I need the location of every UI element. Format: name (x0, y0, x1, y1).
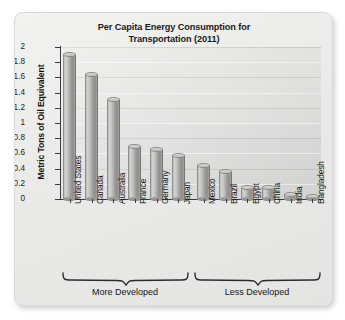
chart-title-line-1: Per Capita Energy Consumption for (43, 22, 305, 34)
x-axis-label-canada: Canada (95, 176, 105, 204)
y-axis-tick-label: 2 (14, 43, 25, 51)
y-axis-tick-label: 1.8 (14, 58, 25, 66)
y-axis-tick-label: 1.2 (14, 104, 25, 112)
x-axis-label-germany: Germany (160, 171, 170, 204)
brace-more-developed (63, 273, 188, 285)
gridline (61, 93, 321, 94)
y-axis-tick (55, 47, 61, 48)
y-axis-tick-label: 0.2 (14, 180, 25, 188)
y-axis-tick (55, 108, 61, 109)
x-axis-label-egypt: Egypt (251, 183, 261, 204)
chart-page: Per Capita Energy Consumption for Transp… (0, 0, 345, 320)
y-axis-tick (55, 138, 61, 139)
chart-card: Per Capita Energy Consumption for Transp… (14, 12, 333, 306)
x-axis-tick (178, 199, 179, 203)
gridline (61, 62, 321, 63)
x-axis-tick (113, 199, 114, 203)
bar-top-cap (85, 72, 98, 77)
brace-less-developed (195, 273, 320, 285)
bar-top-cap (197, 163, 210, 168)
x-axis-label-china: China (272, 183, 282, 204)
gridline (61, 153, 321, 154)
chart-title: Per Capita Energy Consumption for Transp… (43, 22, 305, 45)
group-braces (61, 271, 323, 287)
x-axis-tick (92, 199, 93, 203)
x-axis-label-brazil: Brazil (229, 184, 239, 204)
y-axis-tick (55, 77, 61, 78)
y-axis-tick (55, 153, 61, 154)
x-axis-label-united-states: United States (73, 156, 83, 204)
gridline (61, 123, 321, 124)
y-axis-tick (55, 184, 61, 185)
bar-top-cap (219, 169, 232, 174)
x-axis-label-mexico: Mexico (207, 178, 217, 204)
x-axis-tick (157, 199, 158, 203)
chart-card-surface: Per Capita Energy Consumption for Transp… (15, 13, 332, 305)
gridline (61, 138, 321, 139)
x-axis-label-bangladesh: Bangladesh (316, 161, 326, 204)
y-axis-tick-label: 1 (14, 119, 25, 127)
x-axis-tick (70, 199, 71, 203)
x-axis-tick (135, 199, 136, 203)
y-axis-tick-label: 1.6 (14, 73, 25, 81)
x-axis-tick (204, 199, 205, 203)
y-axis-tick (55, 62, 61, 63)
y-axis-tick (55, 93, 61, 94)
bar-top-cap (107, 97, 120, 102)
gridline (61, 169, 321, 170)
x-axis-label-france: France (138, 179, 148, 204)
x-axis-tick (269, 199, 270, 203)
gridline (61, 77, 321, 78)
chart-title-line-2: Transportation (2011) (43, 34, 305, 46)
x-axis-label-japan: Japan (182, 182, 192, 204)
x-axis-tick (312, 199, 313, 203)
y-axis-title: Metric Tons of Oil Equivalent (36, 52, 46, 192)
bar-top-cap (172, 153, 185, 158)
x-axis-label-australia: Australia (117, 173, 127, 204)
x-axis-tick (291, 199, 292, 203)
y-axis-tick-label: 1.4 (14, 89, 25, 97)
y-axis-tick-label: 0 (14, 195, 25, 203)
bar-top-cap (128, 144, 141, 149)
gridline (61, 108, 321, 109)
bar-top-cap (150, 147, 163, 152)
group-label-less-developed: Less Developed (193, 287, 321, 297)
gridline (61, 47, 321, 48)
y-axis-tick-label: 0.4 (14, 165, 25, 173)
x-axis-label-india: India (294, 187, 304, 204)
y-axis-tick-label: 0.8 (14, 134, 25, 142)
y-axis-tick-label: 0.6 (14, 149, 25, 157)
y-axis-tick (55, 123, 61, 124)
y-axis-tick (55, 199, 61, 200)
group-label-more-developed: More Developed (61, 287, 189, 297)
x-axis-tick (226, 199, 227, 203)
y-axis-tick (55, 169, 61, 170)
bar-top-cap (63, 52, 76, 57)
x-axis-tick (247, 199, 248, 203)
